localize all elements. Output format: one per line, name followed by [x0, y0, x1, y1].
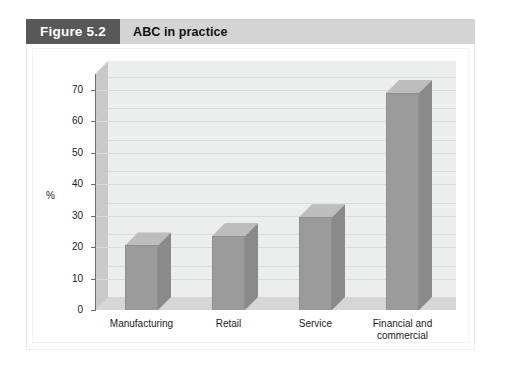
- bar[interactable]: [299, 204, 345, 310]
- y-axis-tick-mark: [91, 279, 95, 280]
- bar-side-face: [245, 223, 258, 310]
- y-axis-tick-label: 50: [57, 148, 83, 158]
- y-axis-tick-mark: [91, 310, 95, 311]
- bar[interactable]: [386, 80, 432, 310]
- bar-front-face: [299, 217, 332, 310]
- y-axis-tick-mark: [91, 90, 95, 91]
- y-axis-tick-label: 10: [57, 274, 83, 284]
- y-axis-tick-mark: [91, 216, 95, 217]
- y-axis-tick-label: 40: [57, 179, 83, 189]
- bar-front-face: [386, 93, 419, 310]
- y-axis-label: %: [46, 190, 55, 201]
- bar-front-face: [212, 236, 245, 310]
- bar-side-face: [158, 232, 171, 310]
- figure-container: Figure 5.2 ABC in practice 0102030405060…: [0, 0, 510, 370]
- y-axis-tick-label: 60: [57, 116, 83, 126]
- bar-side-face: [419, 80, 432, 310]
- bar-front-face: [125, 245, 158, 310]
- x-axis-tick-label: Financial and commercial: [348, 318, 458, 342]
- y-axis-tick-mark: [91, 121, 95, 122]
- bar-chart: 010203040506070 % ManufacturingRetailSer…: [0, 0, 510, 370]
- y-axis-tick-mark: [91, 153, 95, 154]
- bar-side-face: [332, 204, 345, 310]
- bar[interactable]: [125, 232, 171, 310]
- y-axis-tick-label: 0: [57, 305, 83, 315]
- y-axis-line: [95, 74, 96, 311]
- y-axis-tick-label: 30: [57, 211, 83, 221]
- y-axis-tick-mark: [91, 184, 95, 185]
- y-axis-tick-label: 20: [57, 242, 83, 252]
- y-axis-tick-label: 70: [57, 85, 83, 95]
- y-axis-tick-mark: [91, 247, 95, 248]
- gridline-back: [108, 77, 456, 78]
- bar[interactable]: [212, 223, 258, 310]
